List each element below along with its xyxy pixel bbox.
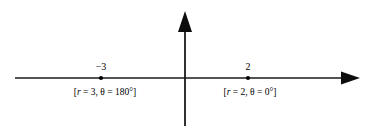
point-marker-dot (99, 76, 103, 80)
point-marker-dot (246, 76, 250, 80)
point-value-label-two: 2 (246, 62, 251, 72)
horizontal-axis-arrowhead-icon (341, 72, 360, 85)
polar-coordinate-figure: −3 [r = 3, θ = 180°] 2 [r = 2, θ = 0°] (0, 0, 373, 127)
point-value-label-negative-three: −3 (96, 62, 107, 72)
point-polar-label-negative-three: [r = 3, θ = 180°] (74, 88, 136, 98)
axes-graphic (0, 0, 373, 127)
vertical-axis-arrowhead-icon (178, 11, 192, 32)
point-polar-label-two: [r = 2, θ = 0°] (224, 88, 277, 98)
